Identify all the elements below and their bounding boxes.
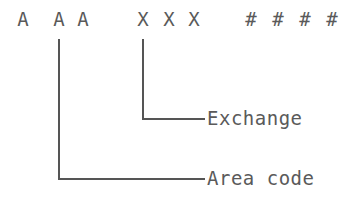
area-code-leader-horizontal [58, 178, 205, 180]
number-char-1: # [245, 10, 256, 29]
area-char-1: A [17, 10, 28, 29]
number-char-3: # [299, 10, 310, 29]
area-char-2: A [53, 10, 64, 29]
exchange-leader-vertical [142, 39, 144, 119]
area-char-3: A [77, 10, 88, 29]
exchange-leader-horizontal [142, 118, 205, 120]
exchange-char-2: X [163, 10, 174, 29]
exchange-char-1: X [137, 10, 148, 29]
exchange-char-3: X [188, 10, 199, 29]
area-code-leader-vertical [58, 39, 60, 179]
area-code-label: Area code [207, 169, 314, 188]
number-char-4: # [326, 10, 337, 29]
exchange-label: Exchange [207, 109, 303, 128]
number-char-2: # [272, 10, 283, 29]
